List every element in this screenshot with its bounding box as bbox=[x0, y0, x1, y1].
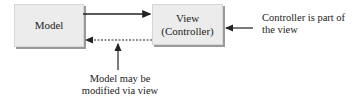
controller-note: Controller is part of the view bbox=[262, 12, 345, 36]
model-note: Model may be modified via view bbox=[80, 73, 160, 97]
